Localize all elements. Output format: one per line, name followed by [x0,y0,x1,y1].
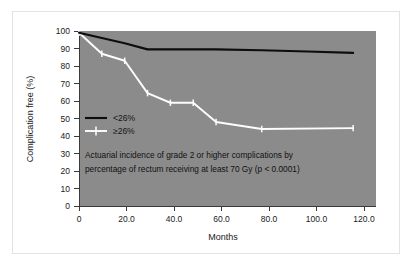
y-tick-label: 10 [61,184,71,194]
complication-free-line-chart: 100 90 80 70 60 50 40 30 20 10 0 [13,12,399,253]
x-axis-ticks [79,206,364,211]
x-tick-label: 0 [77,214,82,224]
y-axis-tick-labels: 100 90 80 70 60 50 40 30 20 10 0 [56,26,70,211]
legend-label-lt-26: <26% [113,113,135,123]
x-tick-label: 100.0 [306,214,328,224]
x-tick-label: 60.0 [213,214,230,224]
caption-line-1: Actuarial incidence of grade 2 or higher… [85,150,294,160]
y-tick-label: 100 [56,26,70,36]
caption-line-2: percentage of rectum receiving at least … [85,164,300,174]
y-tick-label: 70 [61,79,71,89]
x-tick-label: 80.0 [261,214,278,224]
x-tick-label: 40.0 [166,214,183,224]
x-tick-label: 120.0 [353,214,375,224]
legend-label-ge-26: ≥26% [113,126,135,136]
y-tick-label: 90 [61,44,71,54]
figure-frame: 100 90 80 70 60 50 40 30 20 10 0 [12,11,400,254]
x-axis-title: Months [208,232,238,242]
x-tick-label: 20.0 [118,214,135,224]
y-tick-label: 50 [61,114,71,124]
y-axis-ticks [74,31,79,206]
y-tick-label: 60 [61,96,71,106]
y-axis-title: Complication free (%) [25,76,35,163]
y-tick-label: 40 [61,131,71,141]
figure-container: 100 90 80 70 60 50 40 30 20 10 0 [0,0,412,266]
y-tick-label: 80 [61,61,71,71]
y-tick-label: 0 [65,201,70,211]
y-tick-label: 20 [61,166,71,176]
x-axis-tick-labels: 0 20.0 40.0 60.0 80.0 100.0 120.0 [77,214,375,224]
y-tick-label: 30 [61,149,71,159]
